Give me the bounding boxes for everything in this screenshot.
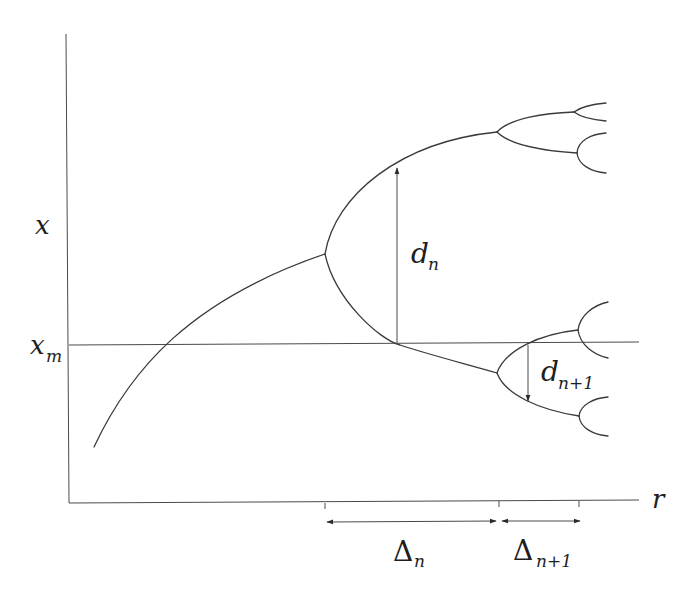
branch-period-4-lower-a bbox=[497, 330, 578, 373]
x-m-subscript: m bbox=[46, 346, 62, 366]
d-n1-subscript: n+1 bbox=[558, 373, 594, 393]
branch-period-8-2 bbox=[574, 112, 606, 121]
delta-n-arrow bbox=[327, 521, 496, 522]
branch-period-8-5 bbox=[578, 302, 608, 330]
delta-n1-label: Δ bbox=[513, 534, 533, 567]
d-n-subscript: n bbox=[428, 254, 439, 274]
branch-period-8-6 bbox=[578, 330, 608, 358]
x-m-reference-line bbox=[69, 342, 639, 345]
branch-period-8-7 bbox=[579, 397, 608, 416]
branch-period-1 bbox=[94, 254, 325, 447]
branch-period-4-upper-b bbox=[497, 132, 577, 153]
y-axis-label: x bbox=[35, 210, 50, 240]
r-axis bbox=[69, 500, 639, 503]
d-n1-label: d bbox=[541, 355, 559, 388]
x-m-label: x bbox=[30, 330, 45, 360]
branch-period-8-3 bbox=[577, 133, 606, 153]
delta-n-label: Δ bbox=[393, 535, 413, 568]
branch-period-8-8 bbox=[579, 416, 608, 436]
d-n-label: d bbox=[411, 237, 429, 270]
y-axis bbox=[66, 34, 69, 503]
branch-period-8-4 bbox=[577, 153, 606, 173]
branch-period-4-upper-a bbox=[497, 112, 574, 132]
branch-period-8-1 bbox=[574, 103, 606, 112]
branch-period-2-lower bbox=[325, 254, 497, 373]
r-axis-label: r bbox=[652, 484, 666, 514]
delta-n-subscript: n bbox=[414, 551, 425, 571]
bifurcation-diagram: x r x m d n d n+1 Δ n Δ n+1 bbox=[0, 0, 689, 597]
delta-n1-subscript: n+1 bbox=[536, 551, 572, 571]
branch-period-2-upper bbox=[325, 132, 497, 254]
